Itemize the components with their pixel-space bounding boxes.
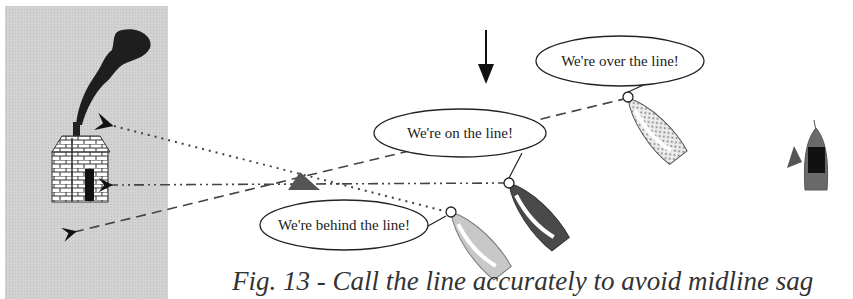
down-arrow-icon [478,30,494,84]
committee-boat-icon [787,120,828,190]
bubble-text-behind: We're behind the line! [278,217,410,233]
figure-caption: Fig. 13 - Call the line accurately to av… [232,266,813,297]
bow-marker [446,207,456,217]
bow-marker [623,92,633,102]
speech-bubble-behind: We're behind the line! [260,200,446,250]
bubble-text-over: We're over the line! [561,53,679,69]
speech-bubble-over: We're over the line! [536,36,704,92]
bubble-text-on: We're on the line! [407,125,513,141]
bow-marker [504,178,514,188]
diagram-canvas: We're over the line! We're on the line! … [0,0,853,299]
speech-bubble-on: We're on the line! [374,109,546,178]
